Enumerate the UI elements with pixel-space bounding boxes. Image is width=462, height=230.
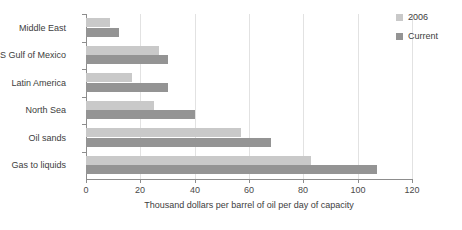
x-tick-label: 120 (404, 185, 419, 195)
category-label: US Gulf of Mexico (0, 50, 66, 60)
gridline (195, 14, 196, 179)
bar (86, 110, 195, 119)
x-axis-title: Thousand dollars per barrel of oil per d… (86, 200, 412, 210)
legend-item: Current (396, 31, 438, 41)
category-label: Latin America (11, 78, 66, 88)
bar (86, 28, 119, 37)
legend-label: Current (408, 31, 438, 41)
x-tick-label: 60 (244, 185, 254, 195)
bar (86, 128, 241, 137)
gridline (358, 14, 359, 179)
category-label: North Sea (25, 105, 66, 115)
bar (86, 165, 377, 174)
bar (86, 138, 271, 147)
category-label: Oil sands (28, 133, 66, 143)
bar (86, 46, 159, 55)
bar-chart: Middle EastUS Gulf of MexicoLatin Americ… (0, 0, 462, 230)
gridline (303, 14, 304, 179)
gridline (140, 14, 141, 179)
category-label: Gas to liquids (11, 160, 66, 170)
bar (86, 18, 110, 27)
bar (86, 55, 168, 64)
y-axis-line (86, 14, 87, 179)
category-label: Middle East (19, 23, 66, 33)
bar (86, 101, 154, 110)
legend-swatch-icon (396, 14, 403, 21)
legend-swatch-icon (396, 33, 403, 40)
x-tick-label: 0 (83, 185, 88, 195)
bar (86, 73, 132, 82)
legend-item: 2006 (396, 12, 438, 22)
legend: 2006 Current (396, 12, 438, 50)
bar (86, 156, 311, 165)
x-axis-line (86, 179, 413, 180)
x-tick-label: 40 (190, 185, 200, 195)
bar (86, 83, 168, 92)
x-tick-label: 20 (135, 185, 145, 195)
legend-label: 2006 (408, 12, 428, 22)
x-tick-label: 100 (350, 185, 365, 195)
gridline (249, 14, 250, 179)
x-tick-label: 80 (298, 185, 308, 195)
